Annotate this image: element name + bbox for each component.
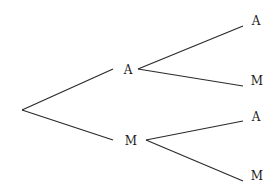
tree-edges: [0, 0, 277, 195]
node-level2-AM: M: [251, 75, 263, 87]
edge-A-M: [138, 69, 243, 86]
node-level1-M: M: [125, 135, 137, 147]
edge-root-M: [22, 110, 113, 140]
edge-M-A: [146, 121, 243, 140]
edge-root-A: [22, 69, 113, 110]
node-level2-MM: M: [251, 170, 263, 182]
edge-A-A: [138, 26, 243, 69]
node-level2-AA: A: [252, 15, 261, 27]
node-level2-MA: A: [252, 111, 261, 123]
edge-M-M: [146, 140, 243, 181]
node-level1-A: A: [124, 64, 133, 76]
